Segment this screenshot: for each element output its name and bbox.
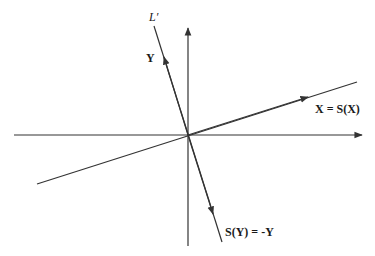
x-equation-label: X = S(X) bbox=[315, 102, 360, 116]
reflection-diagram: L′ Y X = S(X) S(Y) = -Y bbox=[0, 0, 375, 256]
y-vector-arrow bbox=[164, 57, 188, 135]
sy-equation-label: S(Y) = -Y bbox=[225, 225, 274, 239]
x-line bbox=[37, 82, 357, 184]
y-vector-label: Y bbox=[146, 51, 155, 65]
x-vector-arrow bbox=[188, 97, 308, 135]
line-name-label: L′ bbox=[148, 10, 159, 24]
sy-vector-arrow bbox=[188, 135, 213, 214]
